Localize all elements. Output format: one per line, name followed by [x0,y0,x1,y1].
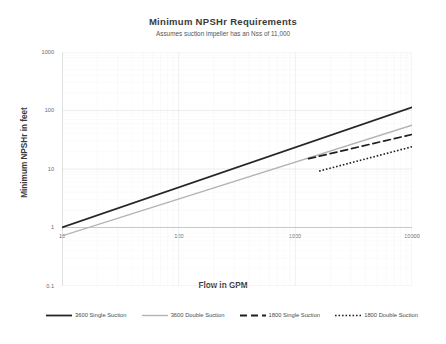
legend-item: 1800 Single Suction [240,312,321,319]
plot-svg [62,52,412,286]
plot-area [62,52,412,286]
y-tick-label: 10 [30,166,54,172]
legend-swatch-solid-dark [46,312,72,319]
y-tick-label: 0.1 [30,283,54,289]
legend-swatch-solid-light [142,312,168,319]
legend-swatch-dashed [240,312,266,319]
series-line [62,125,412,236]
legend-swatch-dotted [335,312,361,319]
y-axis-title: Minimum NPSHr in feet [20,93,29,213]
y-tick-label: 1000 [30,49,54,55]
legend-item: 3600 Single Suction [46,312,127,319]
chart-subtitle: Assumes suction impeller has an Nss of 1… [0,30,446,37]
y-tick-label: 1 [30,224,54,230]
legend-label: 1800 Double Suction [364,312,418,318]
y-tick-label: 100 [30,107,54,113]
legend-label: 3600 Single Suction [75,312,127,318]
legend-item: 3600 Double Suction [142,312,225,319]
chart-legend: 3600 Single Suction 3600 Double Suction … [46,306,418,324]
chart-container: Minimum NPSHr Requirements Assumes sucti… [0,0,446,344]
chart-title: Minimum NPSHr Requirements [0,16,446,27]
legend-label: 1800 Single Suction [269,312,321,318]
legend-label: 3600 Double Suction [171,312,225,318]
series-line [62,107,412,227]
legend-item: 1800 Double Suction [335,312,418,319]
